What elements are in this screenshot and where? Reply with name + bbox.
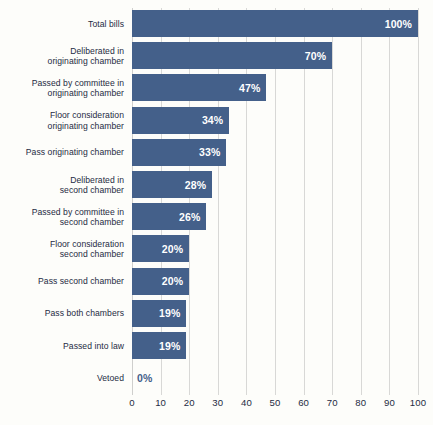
category-label: Deliberated in second chamber bbox=[0, 174, 124, 195]
category-label: Floor consideration originating chamber bbox=[0, 110, 124, 131]
x-tick-label-10: 10 bbox=[155, 397, 166, 408]
bar-value-label: 70% bbox=[305, 50, 326, 62]
bar-row: Passed by committee in second chamber26% bbox=[0, 203, 433, 230]
bar-value-label: 47% bbox=[239, 82, 260, 94]
x-tick-label-80: 80 bbox=[355, 397, 366, 408]
bar-value-label: 26% bbox=[179, 211, 200, 223]
category-label: Floor consideration second chamber bbox=[0, 238, 124, 259]
bar: 47% bbox=[132, 74, 266, 101]
bar: 20% bbox=[132, 235, 189, 262]
bar-row: Passed into law19% bbox=[0, 332, 433, 359]
x-tick-label-90: 90 bbox=[384, 397, 395, 408]
x-tick-label-40: 40 bbox=[241, 397, 252, 408]
bar-value-label: 19% bbox=[159, 307, 180, 319]
bar-value-label: 0% bbox=[137, 372, 152, 384]
bar: 20% bbox=[132, 268, 189, 295]
bar-value-label: 33% bbox=[199, 146, 220, 158]
bar-row: Pass originating chamber33% bbox=[0, 139, 433, 166]
bar: 33% bbox=[132, 139, 226, 166]
category-label: Passed by committee in originating chamb… bbox=[0, 77, 124, 98]
category-label: Deliberated in originating chamber bbox=[0, 45, 124, 66]
category-label: Passed by committee in second chamber bbox=[0, 206, 124, 227]
bar: 70% bbox=[132, 42, 332, 69]
bar-row: Total bills100% bbox=[0, 10, 433, 37]
bar: 34% bbox=[132, 107, 229, 134]
bar: 28% bbox=[132, 171, 212, 198]
x-tick-label-60: 60 bbox=[298, 397, 309, 408]
category-label: Pass second chamber bbox=[0, 276, 124, 286]
category-label: Pass both chambers bbox=[0, 308, 124, 318]
bar: 19% bbox=[132, 300, 186, 327]
bar-value-label: 28% bbox=[185, 179, 206, 191]
bar: 100% bbox=[132, 10, 418, 37]
x-tick-label-0: 0 bbox=[129, 397, 134, 408]
category-label: Pass originating chamber bbox=[0, 147, 124, 157]
bar-row: Floor consideration second chamber20% bbox=[0, 235, 433, 262]
x-axis: 0102030405060708090100 bbox=[132, 395, 418, 425]
category-label: Vetoed bbox=[0, 372, 124, 382]
bar-value-label: 20% bbox=[162, 243, 183, 255]
x-tick-label-100: 100 bbox=[410, 397, 426, 408]
bar-row: Passed by committee in originating chamb… bbox=[0, 74, 433, 101]
bar-value-label: 19% bbox=[159, 340, 180, 352]
bar: 26% bbox=[132, 203, 206, 230]
bar-row: Deliberated in originating chamber70% bbox=[0, 42, 433, 69]
bar-row: Floor consideration originating chamber3… bbox=[0, 107, 433, 134]
bar-row: Pass second chamber20% bbox=[0, 268, 433, 295]
x-tick-label-50: 50 bbox=[270, 397, 281, 408]
x-tick-label-30: 30 bbox=[212, 397, 223, 408]
bar-value-label: 20% bbox=[162, 275, 183, 287]
bar-value-label: 34% bbox=[202, 114, 223, 126]
bar-value-label: 100% bbox=[385, 18, 412, 30]
bar: 19% bbox=[132, 332, 186, 359]
bar-row: Pass both chambers19% bbox=[0, 300, 433, 327]
x-tick-label-20: 20 bbox=[184, 397, 195, 408]
x-tick-label-70: 70 bbox=[327, 397, 338, 408]
bar-chart: Total bills100%Deliberated in originatin… bbox=[0, 0, 433, 425]
category-label: Passed into law bbox=[0, 340, 124, 350]
category-label: Total bills bbox=[0, 18, 124, 28]
bar-row: Deliberated in second chamber28% bbox=[0, 171, 433, 198]
bar-row: Vetoed0% bbox=[0, 364, 433, 391]
